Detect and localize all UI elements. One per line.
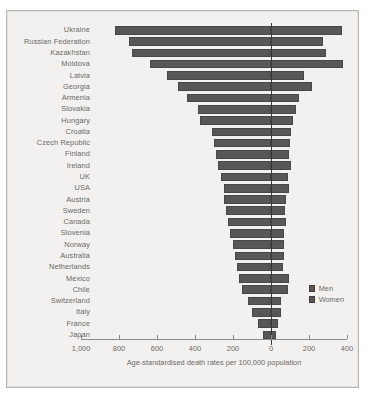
bar-women xyxy=(271,116,293,125)
bar-women xyxy=(271,161,291,170)
bar-women xyxy=(271,173,288,182)
country-label: Czech Republic xyxy=(37,138,90,147)
bar-men xyxy=(224,195,271,204)
value-axis-line xyxy=(81,339,347,340)
zero-axis-line xyxy=(271,23,272,345)
bar-men xyxy=(226,206,271,215)
chart-legend: MenWomen xyxy=(309,283,344,305)
bar-men xyxy=(167,71,271,80)
country-label: Slovakia xyxy=(61,104,90,113)
country-label: Switzerland xyxy=(51,296,90,305)
bar-women xyxy=(271,195,286,204)
country-label: Kazakhstan xyxy=(50,48,90,57)
legend-label: Men xyxy=(319,284,333,293)
country-label: Canada xyxy=(64,217,91,226)
bar-women xyxy=(271,37,323,46)
bar-women xyxy=(271,184,289,193)
bar-women xyxy=(271,71,304,80)
country-label: Netherlands xyxy=(49,262,90,271)
axis-tick-label: 200 xyxy=(303,344,315,353)
country-label: Austria xyxy=(66,195,90,204)
bar-women xyxy=(271,218,286,227)
axis-tick xyxy=(233,335,234,339)
bar-men xyxy=(263,331,271,340)
country-label: Armenia xyxy=(62,93,90,102)
bar-men xyxy=(214,139,271,148)
bar-men xyxy=(230,229,271,238)
bar-men xyxy=(252,308,271,317)
bar-men xyxy=(198,105,271,114)
bar-men xyxy=(212,128,271,137)
axis-tick-label: 600 xyxy=(151,344,163,353)
bar-men xyxy=(248,297,271,306)
country-label: Norway xyxy=(64,240,90,249)
bar-men xyxy=(235,252,271,261)
country-label: Finland xyxy=(65,149,90,158)
country-label: Georgia xyxy=(63,82,90,91)
legend-label: Women xyxy=(319,295,344,304)
axis-tick xyxy=(195,335,196,339)
bar-men xyxy=(150,60,271,69)
bar-men xyxy=(228,218,271,227)
country-label: France xyxy=(66,319,90,328)
bar-men xyxy=(132,49,271,58)
axis-tick-label: 0 xyxy=(269,344,273,353)
chart-figure: UkraineRussian FederationKazakhstanMoldo… xyxy=(6,10,359,388)
axis-tick xyxy=(81,335,82,339)
axis-tick xyxy=(347,335,348,339)
plot-area: UkraineRussian FederationKazakhstanMoldo… xyxy=(7,11,358,387)
bar-women xyxy=(271,308,281,317)
bar-men xyxy=(237,263,271,272)
legend-swatch-icon xyxy=(309,285,316,292)
bar-men xyxy=(233,240,271,249)
bar-men xyxy=(218,161,271,170)
bar-women xyxy=(271,240,284,249)
legend-item: Women xyxy=(309,294,344,305)
axis-tick xyxy=(119,335,120,339)
bar-women xyxy=(271,128,291,137)
bar-women xyxy=(271,229,284,238)
bar-women xyxy=(271,26,342,35)
country-label: Ireland xyxy=(67,161,90,170)
axis-tick xyxy=(271,335,272,339)
country-label: Slovenia xyxy=(61,228,90,237)
bar-men xyxy=(224,184,272,193)
axis-tick-label: 1,000 xyxy=(72,344,91,353)
country-label: Ukraine xyxy=(64,25,90,34)
country-label: Mexico xyxy=(66,274,90,283)
bar-men xyxy=(216,150,271,159)
bar-women xyxy=(271,206,285,215)
bar-men xyxy=(178,82,271,91)
country-label: Chile xyxy=(73,285,90,294)
country-label: Russian Federation xyxy=(24,37,90,46)
axis-caption: Age-standardised death rates per 100,000… xyxy=(127,358,302,367)
country-label: Hungary xyxy=(61,116,90,125)
bar-women xyxy=(271,285,288,294)
bar-women xyxy=(271,60,343,69)
bar-women xyxy=(271,263,283,272)
bar-men xyxy=(129,37,272,46)
country-label: Sweden xyxy=(63,206,90,215)
legend-item: Men xyxy=(309,283,344,294)
bar-women xyxy=(271,94,299,103)
country-label: Japan xyxy=(69,330,90,339)
bar-men xyxy=(187,94,271,103)
axis-tick-label: 400 xyxy=(341,344,353,353)
bar-men xyxy=(221,173,271,182)
country-label: Moldova xyxy=(61,59,90,68)
bar-women xyxy=(271,139,290,148)
country-label: Latvia xyxy=(70,71,90,80)
bar-women xyxy=(271,82,312,91)
axis-tick xyxy=(309,335,310,339)
axis-tick-label: 200 xyxy=(227,344,239,353)
country-label: UK xyxy=(80,172,90,181)
legend-swatch-icon xyxy=(309,296,316,303)
axis-tick-label: 800 xyxy=(113,344,125,353)
bar-women xyxy=(271,150,289,159)
bar-women xyxy=(271,297,281,306)
bar-women xyxy=(271,49,326,58)
axis-tick-label: 400 xyxy=(189,344,201,353)
bar-men xyxy=(115,26,271,35)
country-label: Croatia xyxy=(65,127,90,136)
bar-men xyxy=(242,285,271,294)
